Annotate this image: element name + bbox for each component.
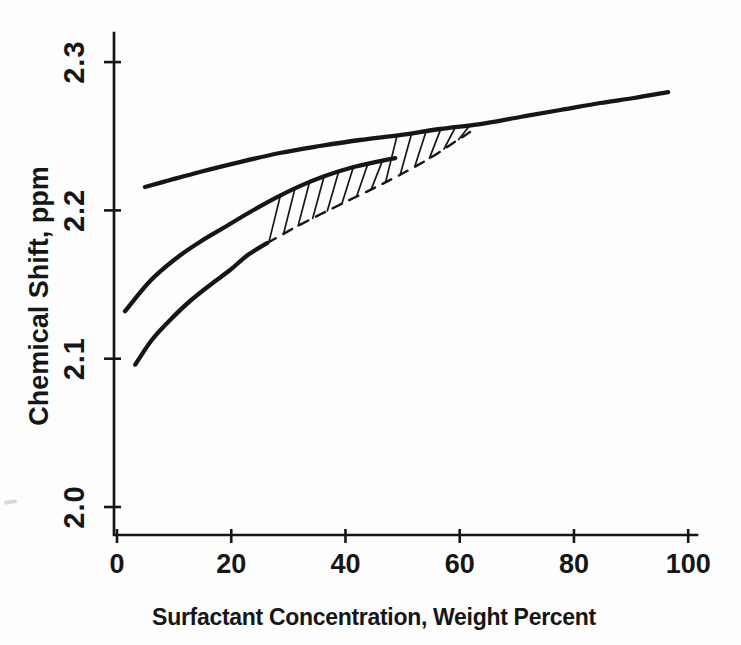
x-tick-label: 60 [445, 549, 475, 579]
x-tick-label: 100 [666, 549, 711, 579]
plot-layer: 2.02.12.22.3020406080100 [58, 33, 711, 579]
y-tick-label: 2.3 [58, 40, 90, 83]
hatch-line [298, 182, 309, 226]
hatch-line [400, 133, 412, 174]
y-axis-title: Chemical Shift, ppm [24, 166, 54, 426]
lower-curve [135, 243, 267, 365]
chart: 2.02.12.22.3020406080100 Chemical Shift,… [0, 0, 741, 645]
upper-curve [145, 92, 668, 187]
hatch-line [371, 161, 382, 190]
x-tick-label: 80 [559, 549, 589, 579]
axes-lines [114, 33, 697, 535]
x-tick-label: 20 [216, 549, 246, 579]
y-tick-label: 2.1 [58, 337, 90, 380]
x-tick-label: 40 [330, 549, 360, 579]
x-tick-label: 0 [109, 549, 124, 579]
figure-page: 2.02.12.22.3020406080100 Chemical Shift,… [0, 0, 741, 645]
y-tick-label: 2.2 [58, 189, 90, 232]
y-tick-label: 2.0 [58, 485, 90, 528]
x-axis-title: Surfactant Concentration, Weight Percent [152, 604, 596, 630]
